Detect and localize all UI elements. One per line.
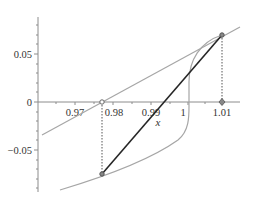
point-marker-top — [220, 33, 224, 37]
x-axis-label: x — [155, 116, 161, 128]
tangent-line — [42, 27, 240, 135]
y-tick-label-neg0.05: −0.05 — [8, 145, 32, 156]
y-tick-label-0.05: 0.05 — [14, 49, 32, 60]
x-tick-label-1.01: 1.01 — [213, 107, 231, 118]
x-tick-label-1: 1 — [180, 107, 185, 118]
x-tick-label-0.98: 0.98 — [105, 107, 123, 118]
secant-line — [102, 35, 222, 174]
y-tick-label-0: 0 — [27, 97, 32, 108]
point-marker-axis-right — [219, 99, 225, 106]
plot-canvas: 0.05 0 −0.05 0.97 0.98 0.99 1 1.01 x — [0, 0, 253, 197]
point-marker-bottom — [100, 172, 104, 176]
y-axis-ticks — [34, 25, 38, 188]
point-marker-axis-left — [100, 100, 104, 104]
